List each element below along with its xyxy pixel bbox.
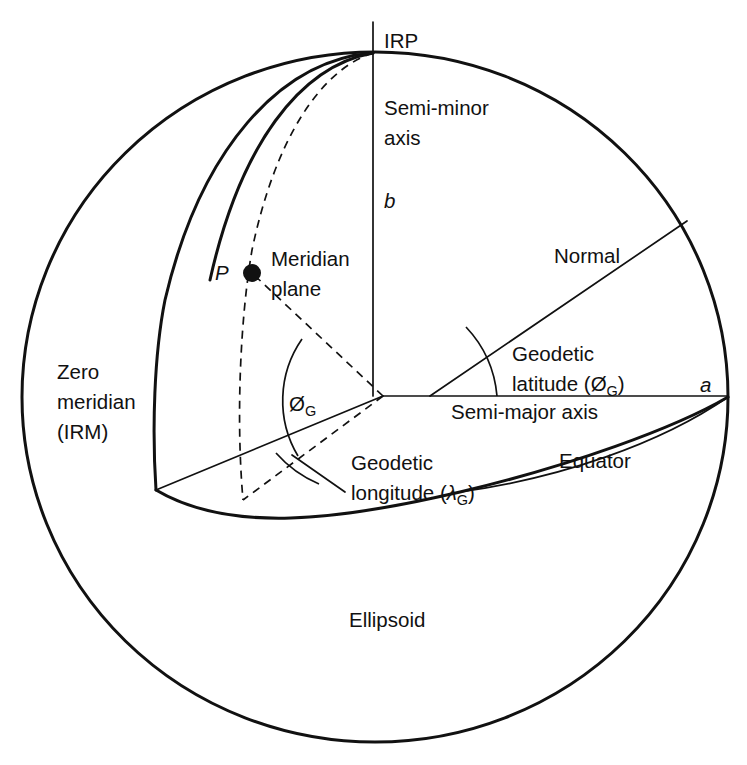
geodetic-longitude-label-line2: longitude (λG) xyxy=(351,481,475,508)
point-p-marker xyxy=(243,264,261,282)
ellipsoid-diagram: IRP Semi-minor axis b P Meridian plane Z… xyxy=(0,0,747,765)
geodetic-latitude-suffix: ) xyxy=(618,372,625,395)
semi-major-axis-label: Semi-major axis xyxy=(451,400,598,423)
meridian-plane-label-line1: Meridian xyxy=(271,247,350,270)
geodetic-longitude-subscript: G xyxy=(457,492,468,508)
ellipsoid-label: Ellipsoid xyxy=(349,608,425,631)
zero-meridian-label-line2: meridian xyxy=(57,390,136,413)
lambda-symbol: λ xyxy=(446,481,457,504)
geodetic-longitude-suffix: ) xyxy=(468,481,475,504)
geodetic-latitude-label-line2: latitude (ØG) xyxy=(512,372,625,399)
geodetic-longitude-label-line1: Geodetic xyxy=(351,451,433,474)
geodetic-latitude-prefix: latitude (Ø xyxy=(512,372,607,395)
equatorial-radius-left-line xyxy=(156,396,383,490)
phi-symbol: Ø xyxy=(289,392,305,415)
irp-label: IRP xyxy=(384,29,418,52)
semi-minor-axis-symbol: b xyxy=(384,189,395,212)
geodetic-longitude-prefix: longitude ( xyxy=(351,481,447,504)
semi-major-axis-symbol: a xyxy=(700,373,711,396)
zero-meridian-curve xyxy=(154,53,373,490)
zero-meridian-label-line3: (IRM) xyxy=(57,420,108,443)
phi-g-angle-label: ØG xyxy=(289,392,316,419)
semi-minor-axis-label-line1: Semi-minor xyxy=(384,96,489,119)
phi-subscript: G xyxy=(305,403,316,419)
semi-minor-axis-label-line2: axis xyxy=(384,126,420,149)
point-p-label: P xyxy=(215,261,229,284)
ellipsoid-diagram-canvas: IRP Semi-minor axis b P Meridian plane Z… xyxy=(0,0,747,765)
equator-label: Equator xyxy=(559,449,631,472)
zero-meridian-label-line1: Zero xyxy=(57,360,99,383)
meridian-upper-rim xyxy=(210,53,373,280)
geodetic-latitude-label-line1: Geodetic xyxy=(512,342,594,365)
meridian-plane-label-line2: plane xyxy=(271,277,321,300)
normal-label: Normal xyxy=(554,244,620,267)
geodetic-latitude-subscript: G xyxy=(607,383,618,399)
